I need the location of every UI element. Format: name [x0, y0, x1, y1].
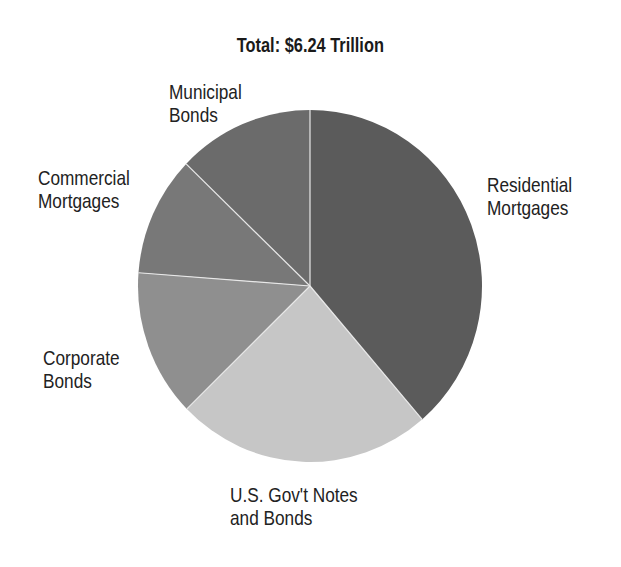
slice-label: CorporateBonds	[43, 346, 120, 392]
slice-label-line: and Bonds	[230, 506, 358, 529]
slice-label-line: Bonds	[43, 369, 120, 392]
slice-label-line: Mortgages	[487, 196, 572, 219]
slice-label-line: Bonds	[169, 103, 242, 126]
slice-label-line: Municipal	[169, 80, 242, 103]
slice-label: MunicipalBonds	[169, 80, 242, 126]
pie-chart	[0, 0, 621, 567]
slice-label-line: Commercial	[38, 166, 130, 189]
slice-label-line: Corporate	[43, 346, 120, 369]
slice-label-line: Residential	[487, 173, 572, 196]
slice-label: ResidentialMortgages	[487, 173, 572, 219]
slice-label-line: Mortgages	[38, 189, 130, 212]
slice-label: CommercialMortgages	[38, 166, 130, 212]
slice-label: U.S. Gov't Notesand Bonds	[230, 483, 358, 529]
slice-label-line: U.S. Gov't Notes	[230, 483, 358, 506]
